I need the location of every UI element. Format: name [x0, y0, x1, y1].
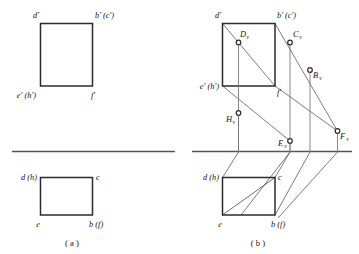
label-Bv-sub: v: [319, 75, 322, 81]
label-b-front-bc-prime: b' (c'): [277, 11, 296, 20]
label-b-front-d-prime: d': [215, 11, 221, 20]
label-Dv-sub: v: [246, 34, 249, 40]
label-a-front-bc-prime: b' (c'): [95, 11, 114, 20]
panel-a-front-rect: [41, 24, 93, 87]
ray-d-to-f-front: [223, 24, 276, 87]
label-Ev-base: E: [277, 139, 283, 148]
label-a-front-d-prime: d': [33, 11, 39, 20]
node-Dv: [236, 40, 241, 45]
panel-a-top-rect: [41, 178, 93, 216]
label-Hv-sub: v: [233, 119, 236, 125]
label-Dv: D v: [239, 30, 249, 40]
label-b-top-e: e: [218, 220, 222, 229]
panel-b-projected-nodes: [236, 40, 340, 143]
label-b-front-f-prime: f': [277, 88, 281, 97]
label-b-top-bf: b (f): [271, 220, 285, 229]
label-a-front-f-prime: f': [91, 91, 95, 100]
caption-panel-b: ( b ): [251, 238, 265, 248]
projection-diagram: d' b' (c') e' (h') f' d (h) c e b (f) ( …: [0, 0, 359, 254]
label-a-front-eh-prime: e' (h'): [17, 91, 36, 100]
label-Bv: B v: [313, 71, 322, 81]
ray-b-to-Fv: [275, 24, 338, 132]
panel-a-front-view: [41, 24, 93, 87]
node-Ev: [288, 139, 293, 144]
node-Cv: [288, 40, 293, 45]
label-Bv-base: B: [313, 71, 318, 80]
label-a-top-bf: b (f): [89, 220, 103, 229]
label-a-top-c: c: [96, 173, 100, 182]
ray-top-b: [275, 152, 310, 215]
label-Dv-base: D: [239, 30, 246, 39]
ray-top-e-aux: [241, 152, 290, 215]
label-b-front-eh-prime: e' (h'): [200, 82, 219, 91]
node-Bv: [308, 68, 313, 73]
label-Fv-base: F: [339, 132, 346, 141]
label-a-top-e: e: [36, 220, 40, 229]
label-b-top-dh: d (h): [203, 173, 219, 182]
label-a-top-dh: d (h): [21, 173, 37, 182]
figure-container: d' b' (c') e' (h') f' d (h) c e b (f) ( …: [0, 0, 359, 254]
panel-b-drop-lines: [239, 43, 338, 153]
label-Cv: C v: [293, 30, 302, 40]
label-Hv: H v: [225, 115, 236, 125]
node-Hv: [236, 111, 241, 116]
label-Cv-sub: v: [299, 34, 302, 40]
label-Fv-sub: v: [346, 136, 349, 142]
ray-f-to-Fv: [275, 86, 338, 131]
label-Ev: E v: [277, 139, 287, 149]
panel-b-top-rays: [223, 152, 338, 218]
ray-top-d: [223, 152, 239, 178]
panel-a-top-view: [41, 178, 93, 216]
ray-top-f: [278, 152, 338, 218]
label-Cv-base: C: [293, 30, 299, 39]
label-b-top-c: c: [278, 173, 282, 182]
label-Ev-sub: v: [284, 143, 287, 149]
caption-panel-a: ( a ): [65, 238, 79, 248]
diagonal-e-to-c: [223, 178, 276, 216]
label-Fv: F v: [339, 132, 349, 142]
